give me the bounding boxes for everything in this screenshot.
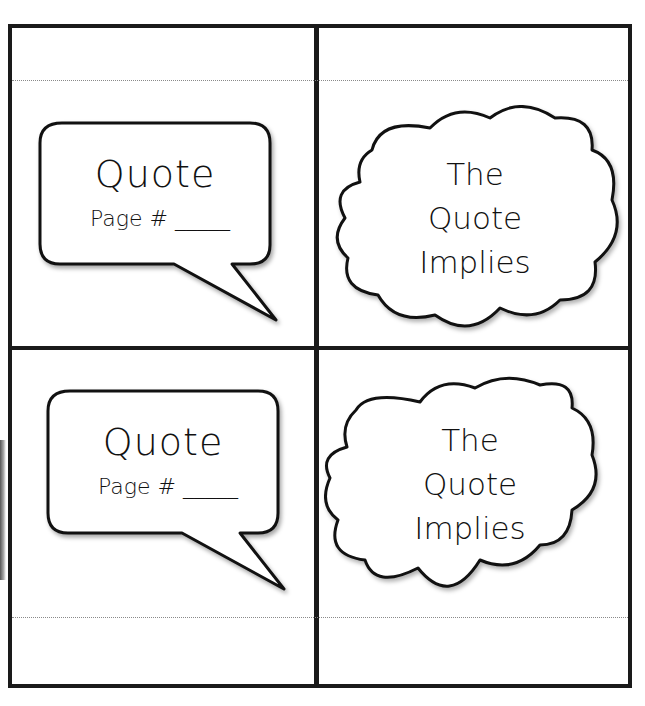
cloud-line-1: The [390, 418, 550, 462]
thought-cloud-bottom [0, 0, 645, 706]
cloud-line-3: Implies [390, 506, 550, 550]
cloud-line-2: Quote [390, 462, 550, 506]
cloud-text: The Quote Implies [390, 418, 550, 550]
